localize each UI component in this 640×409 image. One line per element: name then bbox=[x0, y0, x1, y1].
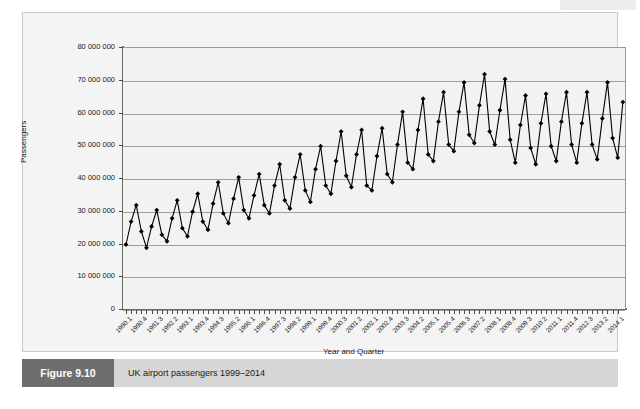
x-axis-tick-mark bbox=[213, 310, 214, 314]
data-point-marker bbox=[554, 159, 559, 164]
data-point-marker bbox=[544, 91, 549, 96]
x-axis-tick-mark bbox=[131, 310, 132, 314]
x-axis-tick-mark bbox=[392, 310, 393, 314]
x-axis-tick-mark bbox=[423, 310, 424, 314]
data-point-marker bbox=[600, 116, 605, 121]
data-point-marker bbox=[421, 96, 426, 101]
x-axis-tick-mark bbox=[141, 310, 142, 314]
data-point-marker bbox=[528, 145, 533, 150]
x-axis-tick-mark bbox=[520, 310, 521, 314]
x-axis-tick-mark bbox=[305, 310, 306, 314]
data-point-marker bbox=[590, 142, 595, 147]
data-point-marker bbox=[462, 80, 467, 85]
figure-caption-bar: Figure 9.10 UK airport passengers 1999–2… bbox=[22, 359, 618, 387]
x-axis-tick-mark bbox=[264, 310, 265, 314]
x-axis-tick-mark bbox=[193, 310, 194, 314]
data-point-marker bbox=[277, 162, 282, 167]
data-point-marker bbox=[226, 221, 231, 226]
y-axis-tick-label: 60 000 000 bbox=[23, 109, 115, 117]
x-axis-tick-mark bbox=[336, 310, 337, 314]
y-axis-tick-label: 70 000 000 bbox=[23, 76, 115, 84]
x-axis-tick-mark bbox=[397, 310, 398, 314]
x-axis-tick-mark bbox=[254, 310, 255, 314]
x-axis-tick-mark bbox=[515, 310, 516, 314]
x-axis-tick-mark bbox=[577, 310, 578, 314]
data-point-marker bbox=[308, 200, 313, 205]
data-point-marker bbox=[416, 127, 421, 132]
data-point-marker bbox=[272, 183, 277, 188]
x-axis-tick-mark bbox=[531, 310, 532, 314]
data-point-marker bbox=[257, 172, 262, 177]
x-axis-tick-mark bbox=[495, 310, 496, 314]
data-point-marker bbox=[190, 209, 195, 214]
data-point-marker bbox=[344, 173, 349, 178]
data-point-marker bbox=[498, 108, 503, 113]
x-axis-title: Year and Quarter bbox=[323, 347, 384, 356]
x-axis-tick-mark bbox=[372, 310, 373, 314]
data-point-marker bbox=[129, 219, 134, 224]
x-axis-tick-mark bbox=[464, 310, 465, 314]
data-point-marker bbox=[595, 157, 600, 162]
x-axis-tick-mark bbox=[387, 310, 388, 314]
x-axis-tick-mark bbox=[280, 310, 281, 314]
x-axis-tick-mark bbox=[428, 310, 429, 314]
data-point-marker bbox=[170, 216, 175, 221]
x-axis-tick-mark bbox=[321, 310, 322, 314]
data-point-marker bbox=[195, 191, 200, 196]
x-axis-tick-mark bbox=[295, 310, 296, 314]
data-point-marker bbox=[139, 229, 144, 234]
x-axis-tick-mark bbox=[234, 310, 235, 314]
data-point-marker bbox=[175, 198, 180, 203]
x-axis-tick-mark bbox=[346, 310, 347, 314]
data-point-marker bbox=[293, 175, 298, 180]
data-point-marker bbox=[574, 160, 579, 165]
x-axis-tick-mark bbox=[182, 310, 183, 314]
data-point-marker bbox=[518, 123, 523, 128]
x-axis-tick-mark bbox=[567, 310, 568, 314]
x-axis-tick-mark bbox=[561, 310, 562, 314]
data-point-marker bbox=[334, 159, 339, 164]
y-axis-tick-label: 50 000 000 bbox=[23, 141, 115, 149]
data-point-marker bbox=[313, 167, 318, 172]
x-axis-tick-mark bbox=[377, 310, 378, 314]
data-point-marker bbox=[236, 175, 241, 180]
data-point-marker bbox=[395, 142, 400, 147]
x-axis-tick-mark bbox=[526, 310, 527, 314]
data-point-marker bbox=[579, 121, 584, 126]
x-axis-tick-mark bbox=[310, 310, 311, 314]
data-point-marker bbox=[354, 152, 359, 157]
x-axis-tick-mark bbox=[597, 310, 598, 314]
data-point-marker bbox=[231, 196, 236, 201]
x-axis-tick-mark bbox=[546, 310, 547, 314]
x-axis-tick-mark bbox=[474, 310, 475, 314]
data-point-marker bbox=[375, 154, 380, 159]
data-point-marker bbox=[503, 77, 508, 82]
x-axis-tick-mark bbox=[269, 310, 270, 314]
x-axis-tick-mark bbox=[275, 310, 276, 314]
x-axis-tick-mark bbox=[172, 310, 173, 314]
data-series-line bbox=[123, 48, 626, 310]
x-axis-tick-mark bbox=[510, 310, 511, 314]
x-axis-tick-mark bbox=[500, 310, 501, 314]
x-axis-tick-mark bbox=[556, 310, 557, 314]
data-point-marker bbox=[221, 211, 226, 216]
data-point-marker bbox=[359, 127, 364, 132]
data-point-marker bbox=[559, 119, 564, 124]
data-point-marker bbox=[298, 152, 303, 157]
data-point-marker bbox=[482, 72, 487, 77]
x-axis-tick-mark bbox=[613, 310, 614, 314]
x-axis-tick-mark bbox=[146, 310, 147, 314]
x-axis-tick-mark bbox=[223, 310, 224, 314]
data-point-marker bbox=[569, 142, 574, 147]
data-point-marker bbox=[513, 160, 518, 165]
x-axis-tick-mark bbox=[413, 310, 414, 314]
x-axis-tick-mark bbox=[187, 310, 188, 314]
x-axis-tick-mark bbox=[198, 310, 199, 314]
x-axis-tick-mark bbox=[126, 310, 127, 314]
x-axis-tick-mark bbox=[351, 310, 352, 314]
y-axis-tick-label: 80 000 000 bbox=[23, 43, 115, 51]
x-axis-tick-mark bbox=[244, 310, 245, 314]
y-axis-tick-label: 30 000 000 bbox=[23, 207, 115, 215]
x-axis-tick-mark bbox=[433, 310, 434, 314]
x-axis-tick-mark bbox=[469, 310, 470, 314]
